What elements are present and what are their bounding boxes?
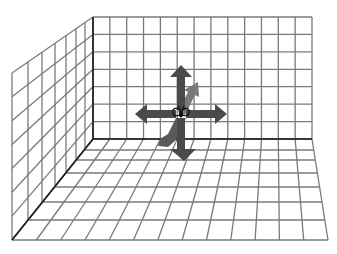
direction-arrows: [135, 65, 227, 161]
grid-line: [12, 69, 93, 144]
left-wall-grid: [12, 17, 93, 240]
room-corner-edges: [12, 17, 312, 240]
grid-line: [312, 139, 328, 240]
left-floor-edge: [12, 139, 93, 240]
grid-line: [295, 139, 304, 240]
floor-grid: [12, 139, 328, 240]
grid-line: [255, 139, 261, 240]
room-grid-diagram: [0, 0, 337, 254]
grid-line: [12, 17, 93, 73]
diagram-canvas: [0, 0, 337, 254]
back-wall-grid: [93, 17, 312, 139]
grid-line: [231, 139, 245, 240]
grid-line: [12, 87, 93, 169]
grid-line: [206, 139, 227, 240]
grid-line: [134, 139, 178, 240]
grid-line: [278, 139, 279, 240]
grid-line: [12, 34, 93, 96]
grid-line: [12, 52, 93, 121]
